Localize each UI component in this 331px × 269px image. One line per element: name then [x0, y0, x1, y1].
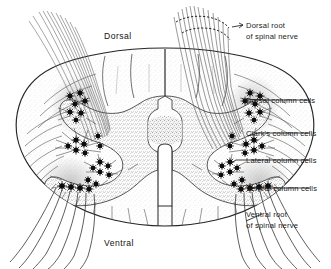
gray-commissure	[148, 116, 182, 145]
callout-dorsal-column-cells: Dorsal column cells	[246, 96, 315, 105]
callout-ventral-root-line1: Ventral root	[246, 210, 288, 219]
callout-dorsal-root-line1: Dorsal root	[246, 21, 286, 30]
orientation-label-dorsal: Dorsal	[104, 31, 132, 41]
diagram-canvas: Dorsal Ventral Dorsal root of spinal ner…	[0, 0, 331, 269]
orientation-label-ventral: Ventral	[104, 238, 134, 248]
central-canal	[158, 144, 172, 206]
callout-dorsal-root-line2: of spinal nerve	[246, 32, 298, 41]
callout-clarks-column-cells: Clark's column cells	[246, 129, 316, 138]
callout-ventral-column-cells: Ventral column cells	[246, 184, 317, 193]
spinal-cord-diagram: Dorsal Ventral Dorsal root of spinal ner…	[0, 0, 331, 269]
callout-lateral-column-cells: Lateral column cells	[246, 156, 317, 165]
callout-ventral-root-line2: of spinal nerve	[246, 221, 298, 230]
